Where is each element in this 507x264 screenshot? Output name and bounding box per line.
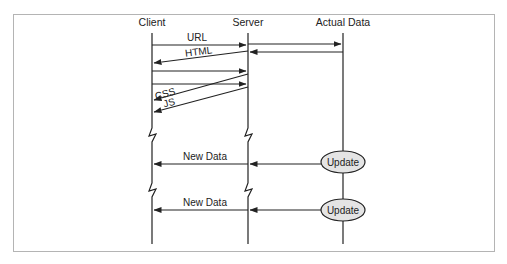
lifeline-server <box>245 33 252 244</box>
participant-server: Server <box>233 16 264 28</box>
sequence-diagram: Client Server Actual Data URL HTML CSS J… <box>0 0 507 264</box>
label-new-data-1: New Data <box>183 151 227 162</box>
event-update-2-label: Update <box>327 205 360 216</box>
lifeline-client <box>149 33 156 244</box>
participant-actual-data: Actual Data <box>316 16 370 28</box>
label-js: JS <box>162 96 176 110</box>
label-new-data-2: New Data <box>183 197 227 208</box>
participant-client: Client <box>139 16 166 28</box>
event-update-2: Update <box>321 199 365 221</box>
label-url: URL <box>187 32 207 43</box>
event-update-1: Update <box>321 151 365 173</box>
event-update-1-label: Update <box>327 157 360 168</box>
